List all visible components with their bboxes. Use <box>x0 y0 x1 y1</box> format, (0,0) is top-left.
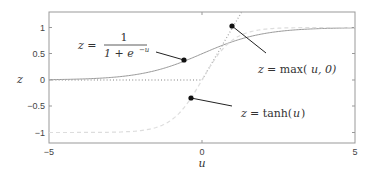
relu-rhs: = max( <box>267 63 307 76</box>
y-tick-label: 1 <box>40 23 45 33</box>
y-tick-label: 0 <box>40 75 45 85</box>
sigmoid-leader-line <box>156 52 184 60</box>
relu-args: u, 0) <box>311 63 336 76</box>
tanh-leader-line <box>191 98 232 106</box>
tanh-rhs: = tanh( <box>250 107 292 120</box>
tanh-lhs: z <box>240 107 247 120</box>
x-axis-label: u <box>198 157 205 170</box>
x-tick-label: −5 <box>44 147 54 157</box>
y-tick-label: −0.5 <box>27 101 45 111</box>
sigmoid-numerator: 1 <box>121 31 128 44</box>
tanh-close: ) <box>301 107 305 120</box>
y-tick-label: 0.5 <box>32 49 45 59</box>
sigmoid-denominator: 1 + e <box>104 47 134 60</box>
series-layer <box>49 12 355 133</box>
relu-marker <box>229 23 234 28</box>
y-tick-label: −1 <box>35 128 45 138</box>
x-tick-label: 5 <box>352 147 357 157</box>
activation-functions-chart: 1 0.5 0 −0.5 −1 −5 0 5 u z z = 1 1 + e −… <box>0 0 373 179</box>
sigmoid-marker <box>181 57 186 62</box>
tanh-marker <box>188 95 193 100</box>
sigmoid-exponent: −u <box>139 46 150 54</box>
sigmoid-lhs: z = <box>77 39 97 52</box>
sigmoid-curve <box>49 28 355 80</box>
tanh-annotation: z = tanh( u ) <box>240 107 305 120</box>
relu-lhs: z <box>257 63 264 76</box>
x-tick-label: 0 <box>199 147 204 157</box>
relu-annotation: z = max( u, 0) <box>257 63 336 76</box>
tanh-arg: u <box>293 107 300 120</box>
y-axis-label: z <box>16 73 23 86</box>
relu-leader-line <box>232 26 266 53</box>
sigmoid-annotation: z = 1 1 + e −u <box>77 31 150 60</box>
axes-frame <box>49 12 355 143</box>
